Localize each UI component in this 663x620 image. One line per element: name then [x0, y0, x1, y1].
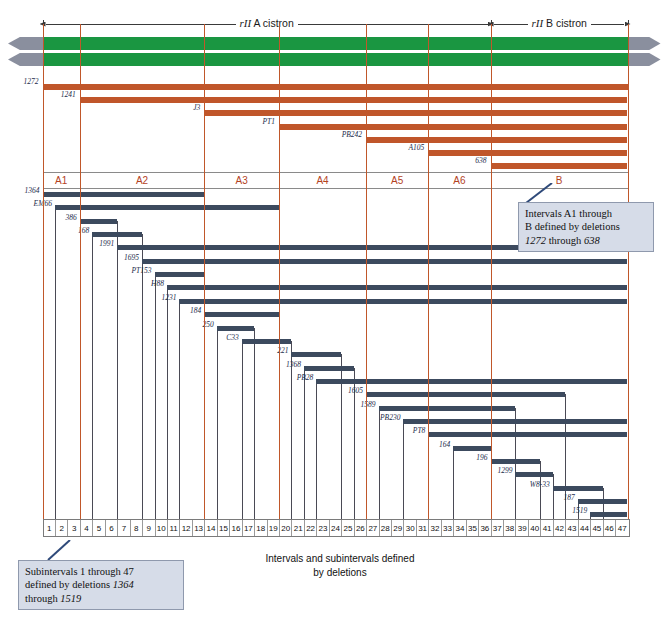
left-arrow-icon-1: [8, 37, 43, 50]
subinterval-cell-19[interactable]: 19: [268, 520, 280, 536]
subinterval-cell-4[interactable]: 4: [81, 520, 93, 536]
subinterval-cell-7[interactable]: 7: [118, 520, 130, 536]
subinterval-cell-14[interactable]: 14: [205, 520, 217, 536]
subintervals-callout-leader: [40, 540, 80, 562]
subinterval-deletion-bar: [204, 312, 279, 317]
subinterval-cell-44[interactable]: 44: [579, 520, 591, 536]
subinterval-cell-2[interactable]: 2: [56, 520, 68, 536]
subinterval-number: 20: [281, 524, 290, 533]
cistron-label-a: rII A cistron: [240, 17, 294, 29]
subinterval-cell-43[interactable]: 43: [566, 520, 578, 536]
subinterval-number: 41: [543, 524, 552, 533]
subinterval-cell-22[interactable]: 22: [305, 520, 317, 536]
subinterval-number: 42: [555, 524, 564, 533]
subinterval-cell-18[interactable]: 18: [255, 520, 267, 536]
subinterval-cell-12[interactable]: 12: [180, 520, 192, 536]
subinterval-cell-24[interactable]: 24: [330, 520, 342, 536]
subinterval-number: 7: [122, 524, 126, 533]
interval-deletion-label: A105: [384, 143, 424, 152]
subinterval-cell-20[interactable]: 20: [280, 520, 292, 536]
interval-label: A2: [136, 175, 148, 186]
interval-deletion-label: PB242: [322, 130, 362, 139]
subinterval-cell-41[interactable]: 41: [541, 520, 553, 536]
subinterval-number: 35: [468, 524, 477, 533]
subinterval-cell-29[interactable]: 29: [392, 520, 404, 536]
subinterval-number: 11: [170, 524, 178, 533]
subinterval-number: 27: [368, 524, 377, 533]
subinterval-number: 17: [244, 524, 253, 533]
subinterval-number: 39: [518, 524, 527, 533]
subinterval-deletion-bar: [179, 299, 627, 304]
interval-deletion-bar: [80, 97, 628, 103]
subinterval-cell-3[interactable]: 3: [68, 520, 80, 536]
subinterval-cell-28[interactable]: 28: [380, 520, 392, 536]
interval-boundary-line: [491, 24, 492, 535]
subinterval-number: 18: [256, 524, 265, 533]
subinterval-number: 37: [493, 524, 502, 533]
subinterval-cell-16[interactable]: 16: [230, 520, 242, 536]
subinterval-cell-32[interactable]: 32: [429, 520, 441, 536]
subinterval-deletion-bar: [304, 366, 354, 371]
subinterval-cell-38[interactable]: 38: [504, 520, 516, 536]
subinterval-cell-47[interactable]: 47: [616, 520, 628, 536]
subinterval-number: 13: [194, 524, 203, 533]
subinterval-drop-line: [92, 234, 93, 519]
right-arrow-icon-2: [628, 53, 661, 66]
subintervals-callout-through: through: [25, 593, 60, 604]
subinterval-cell-42[interactable]: 42: [554, 520, 566, 536]
subinterval-number: 16: [231, 524, 240, 533]
subinterval-cell-10[interactable]: 10: [156, 520, 168, 536]
subinterval-number: 47: [618, 524, 627, 533]
subinterval-drop-line: [155, 274, 156, 519]
subinterval-cell-27[interactable]: 27: [367, 520, 379, 536]
subinterval-cell-26[interactable]: 26: [355, 520, 367, 536]
subinterval-cell-23[interactable]: 23: [317, 520, 329, 536]
subinterval-deletion-label: 196: [449, 453, 488, 462]
subinterval-cell-33[interactable]: 33: [442, 520, 454, 536]
subinterval-deletion-bar: [92, 232, 142, 237]
subinterval-cell-25[interactable]: 25: [342, 520, 354, 536]
subintervals-callout-del-start: 1364: [113, 579, 134, 590]
subinterval-cell-6[interactable]: 6: [106, 520, 118, 536]
subinterval-cell-45[interactable]: 45: [591, 520, 603, 536]
subinterval-cell-36[interactable]: 36: [479, 520, 491, 536]
right-arrow-icon-1: [628, 37, 661, 50]
intervals-callout-line2: B defined by deletions: [525, 220, 647, 233]
subinterval-cell-21[interactable]: 21: [292, 520, 304, 536]
subinterval-deletion-label: 1589: [337, 400, 376, 409]
subinterval-cell-9[interactable]: 9: [143, 520, 155, 536]
subinterval-number: 38: [505, 524, 514, 533]
subinterval-drop-line: [403, 421, 404, 519]
subinterval-deletion-bar: [379, 406, 516, 411]
subinterval-drop-line: [179, 301, 180, 519]
subinterval-number: 9: [147, 524, 151, 533]
subintervals-callout-del-end: 1519: [60, 593, 81, 604]
subinterval-number: 36: [480, 524, 489, 533]
subinterval-deletion-label: 164: [411, 440, 450, 449]
subinterval-cell-35[interactable]: 35: [467, 520, 479, 536]
subinterval-cell-34[interactable]: 34: [454, 520, 466, 536]
subinterval-deletion-label: PB28: [274, 373, 313, 382]
subinterval-cell-5[interactable]: 5: [93, 520, 105, 536]
interval-deletion-label: 1272: [0, 77, 39, 86]
cistron-rule: [494, 24, 528, 25]
subinterval-cell-8[interactable]: 8: [131, 520, 143, 536]
subinterval-cell-31[interactable]: 31: [417, 520, 429, 536]
subinterval-cell-17[interactable]: 17: [243, 520, 255, 536]
subinterval-cell-13[interactable]: 13: [193, 520, 205, 536]
intervals-callout-line3: 1272 through 638: [525, 234, 647, 247]
subinterval-deletion-bar: [217, 326, 254, 331]
subinterval-deletion-label: 1519: [548, 506, 587, 515]
subinterval-cell-37[interactable]: 37: [492, 520, 504, 536]
subinterval-cell-30[interactable]: 30: [404, 520, 416, 536]
subinterval-cell-1[interactable]: 1: [44, 520, 56, 536]
subinterval-deletion-label: PB230: [361, 413, 400, 422]
subinterval-cell-15[interactable]: 15: [218, 520, 230, 536]
subinterval-cell-11[interactable]: 11: [168, 520, 180, 536]
subinterval-cell-40[interactable]: 40: [529, 520, 541, 536]
subinterval-cell-46[interactable]: 46: [604, 520, 616, 536]
subinterval-number: 25: [343, 524, 352, 533]
interval-label: A6: [453, 175, 465, 186]
subinterval-cell-39[interactable]: 39: [516, 520, 528, 536]
subintervals-callout-defined: defined by deletions: [25, 579, 113, 590]
